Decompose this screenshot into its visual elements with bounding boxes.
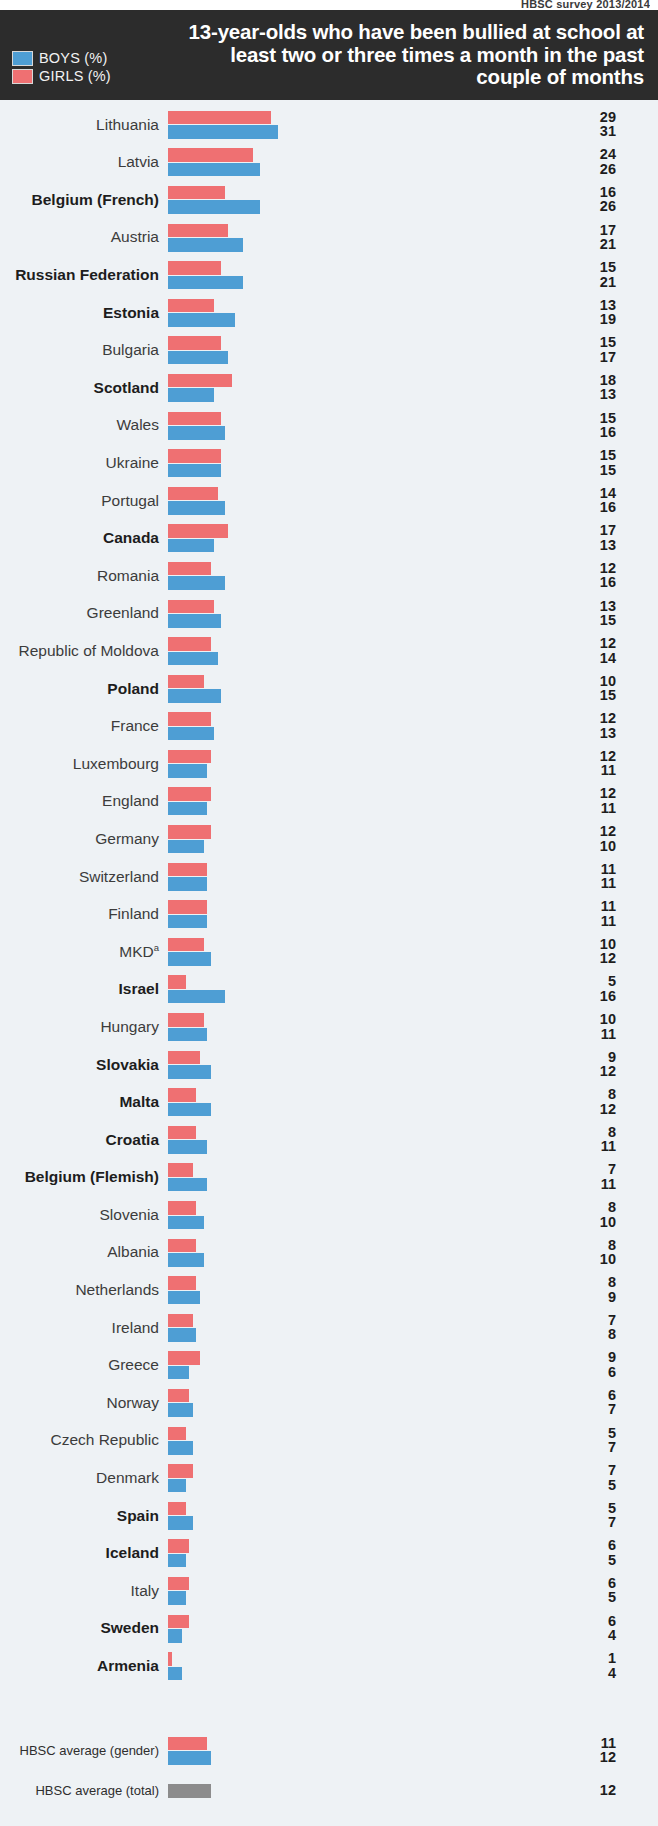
value-boys: 8 bbox=[568, 1328, 616, 1342]
chart-row: Republic of Moldova1214 bbox=[0, 632, 658, 670]
bar-boys bbox=[168, 539, 214, 553]
bar-girls bbox=[168, 449, 221, 463]
bar-girls bbox=[168, 675, 204, 689]
footnote-marker: a bbox=[154, 942, 159, 953]
bar-boys bbox=[168, 915, 207, 929]
chart-row: Estonia1319 bbox=[0, 294, 658, 332]
row-label: Czech Republic bbox=[0, 1432, 168, 1448]
value-girls: 1 bbox=[568, 1652, 616, 1666]
bar-boys bbox=[168, 125, 278, 139]
legend-swatch-boys-icon bbox=[12, 51, 33, 66]
bar-girls bbox=[168, 863, 207, 877]
chart-row: Greece96 bbox=[0, 1347, 658, 1385]
bar-boys bbox=[168, 952, 211, 966]
chart-row: Slovakia912 bbox=[0, 1046, 658, 1084]
value-girls: 15 bbox=[568, 412, 616, 426]
value-boys: 16 bbox=[568, 426, 616, 440]
value-girls: 5 bbox=[568, 1427, 616, 1441]
chart-header: BOYS (%) GIRLS (%) 13-year-olds who have… bbox=[0, 10, 658, 100]
bar-girls bbox=[168, 1201, 196, 1215]
value-girls: 10 bbox=[568, 675, 616, 689]
row-label: Russian Federation bbox=[0, 267, 168, 283]
value-boys: 5 bbox=[568, 1554, 616, 1568]
chart-row: Malta812 bbox=[0, 1083, 658, 1121]
legend: BOYS (%) GIRLS (%) bbox=[12, 26, 162, 84]
chart-row: Czech Republic57 bbox=[0, 1422, 658, 1460]
value-girls: 15 bbox=[568, 336, 616, 350]
row-label: Wales bbox=[0, 417, 168, 433]
bar-total bbox=[168, 1784, 211, 1798]
value-boys: 12 bbox=[568, 952, 616, 966]
bar-boys bbox=[168, 1328, 196, 1342]
chart-row: Ireland78 bbox=[0, 1309, 658, 1347]
bar-boys bbox=[168, 1441, 193, 1455]
value-boys: 21 bbox=[568, 276, 616, 290]
value-boys: 5 bbox=[568, 1479, 616, 1493]
value-girls: 12 bbox=[568, 562, 616, 576]
value-boys: 13 bbox=[568, 727, 616, 741]
bar-boys bbox=[168, 576, 225, 590]
chart-row: Belgium (French)1626 bbox=[0, 181, 658, 219]
value-girls: 6 bbox=[568, 1539, 616, 1553]
legend-item-girls: GIRLS (%) bbox=[12, 68, 162, 84]
chart-row: Ukraine1515 bbox=[0, 444, 658, 482]
average-total-values: 12 bbox=[568, 1771, 658, 1811]
row-label: Slovakia bbox=[0, 1057, 168, 1073]
value-boys: 11 bbox=[568, 1140, 616, 1154]
row-values: 1813 bbox=[568, 369, 658, 407]
value-girls: 15 bbox=[568, 449, 616, 463]
bar-girls bbox=[168, 1351, 200, 1365]
bar-boys bbox=[168, 200, 260, 214]
value-girls: 9 bbox=[568, 1351, 616, 1365]
chart-row: Bulgaria1517 bbox=[0, 332, 658, 370]
row-label: Estonia bbox=[0, 305, 168, 321]
bar-girls bbox=[168, 750, 211, 764]
row-values: 1111 bbox=[568, 895, 658, 933]
row-label: Croatia bbox=[0, 1132, 168, 1148]
chart-row: Italy65 bbox=[0, 1572, 658, 1610]
value-girls: 12 bbox=[568, 787, 616, 801]
chart-row: Armenia14 bbox=[0, 1647, 658, 1685]
bar-girls bbox=[168, 600, 214, 614]
bar-chart-body: Lithuania2931Latvia2426Belgium (French)1… bbox=[0, 100, 658, 1826]
bar-girls bbox=[168, 1126, 196, 1140]
bar-girls bbox=[168, 1539, 189, 1553]
row-values: 1111 bbox=[568, 858, 658, 896]
bar-boys bbox=[168, 727, 214, 741]
value-girls: 13 bbox=[568, 299, 616, 313]
value-boys: 15 bbox=[568, 614, 616, 628]
value-girls: 8 bbox=[568, 1239, 616, 1253]
row-label: Switzerland bbox=[0, 869, 168, 885]
value-girls: 12 bbox=[568, 825, 616, 839]
bar-boys bbox=[168, 1028, 207, 1042]
value-boys: 26 bbox=[568, 163, 616, 177]
row-label: Scotland bbox=[0, 380, 168, 396]
row-values: 89 bbox=[568, 1271, 658, 1309]
value-boys: 5 bbox=[568, 1591, 616, 1605]
bar-boys bbox=[168, 464, 221, 478]
value-boys: 4 bbox=[568, 1667, 616, 1681]
bar-girls bbox=[168, 186, 225, 200]
row-values: 2426 bbox=[568, 144, 658, 182]
chart-row: Germany1210 bbox=[0, 820, 658, 858]
value-boys: 13 bbox=[568, 388, 616, 402]
chart-row: England1211 bbox=[0, 783, 658, 821]
value-girls: 11 bbox=[568, 863, 616, 877]
value-girls: 10 bbox=[568, 938, 616, 952]
row-values: 57 bbox=[568, 1497, 658, 1535]
bar-boys bbox=[168, 990, 225, 1004]
bar-girls bbox=[168, 1276, 196, 1290]
value-boys: 7 bbox=[568, 1441, 616, 1455]
row-values: 96 bbox=[568, 1347, 658, 1385]
average-row-gender: HBSC average (gender) 11 12 bbox=[0, 1731, 658, 1771]
value-boys: 15 bbox=[568, 689, 616, 703]
row-label: Republic of Moldova bbox=[0, 643, 168, 659]
bar-boys bbox=[168, 238, 243, 252]
row-values: 65 bbox=[568, 1572, 658, 1610]
chart-row: Switzerland1111 bbox=[0, 858, 658, 896]
bar-boys bbox=[168, 1103, 211, 1117]
row-values: 14 bbox=[568, 1647, 658, 1685]
bar-boys bbox=[168, 1403, 193, 1417]
value-girls: 12 bbox=[568, 750, 616, 764]
legend-item-boys: BOYS (%) bbox=[12, 50, 162, 66]
